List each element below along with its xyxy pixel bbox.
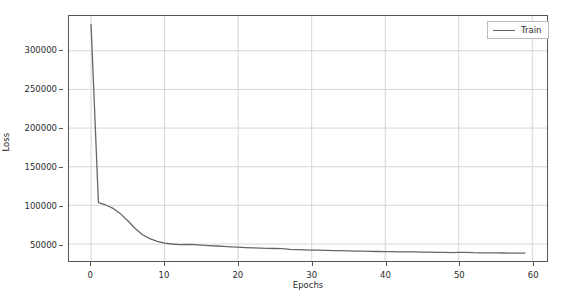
x-tick-mark [312, 262, 313, 266]
y-tick-label: 100000 [25, 202, 57, 211]
x-axis-tick-labels: 0102030405060 [0, 266, 565, 282]
data-series-layer [69, 16, 547, 261]
y-tick-label: 300000 [25, 46, 57, 55]
y-tick-mark [59, 245, 63, 246]
y-tick-label: 50000 [30, 241, 57, 250]
plot-area [68, 15, 548, 262]
series-line-train [91, 25, 525, 254]
x-tick-label: 40 [380, 271, 391, 280]
chart-legend: Train [487, 21, 549, 39]
x-axis-title: Epochs [68, 281, 548, 290]
y-tick-mark [59, 50, 63, 51]
y-tick-label: 200000 [25, 124, 57, 133]
chart-figure: 50000100000150000200000250000300000 Loss… [0, 0, 565, 303]
y-tick-mark [59, 128, 63, 129]
x-tick-mark [459, 262, 460, 266]
legend-entry-label: Train [521, 26, 541, 35]
y-tick-mark [59, 89, 63, 90]
x-tick-mark [164, 262, 165, 266]
x-tick-label: 0 [87, 271, 92, 280]
x-tick-label: 10 [159, 271, 170, 280]
x-tick-mark [90, 262, 91, 266]
y-axis-title: Loss [2, 133, 11, 152]
y-tick-label: 250000 [25, 85, 57, 94]
x-tick-mark [533, 262, 534, 266]
y-tick-mark [59, 167, 63, 168]
legend-line-swatch-icon [493, 30, 515, 31]
x-tick-label: 50 [454, 271, 465, 280]
y-tick-mark [59, 206, 63, 207]
y-tick-label: 150000 [25, 163, 57, 172]
x-tick-mark [238, 262, 239, 266]
x-tick-label: 20 [232, 271, 243, 280]
x-tick-label: 60 [528, 271, 539, 280]
x-tick-label: 30 [306, 271, 317, 280]
x-tick-mark [386, 262, 387, 266]
